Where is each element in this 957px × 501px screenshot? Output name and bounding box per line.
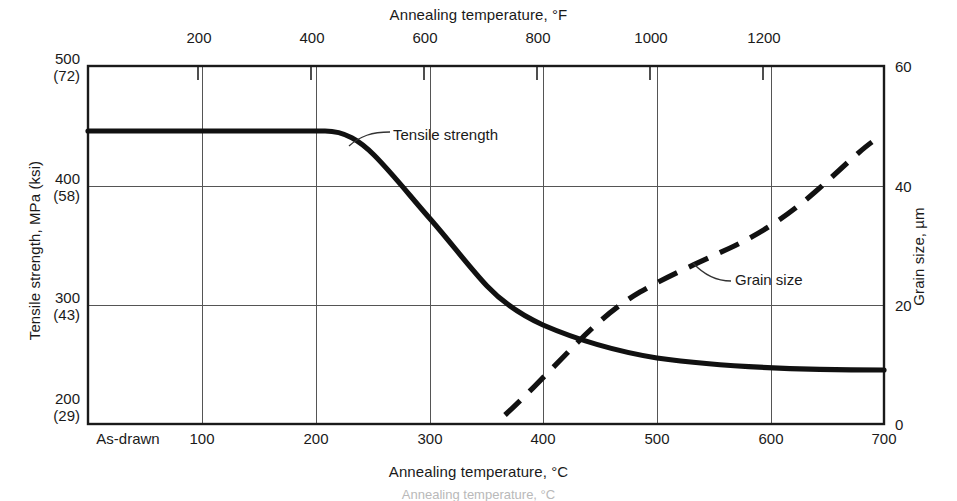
plot-frame: [88, 66, 884, 424]
figure-caption: Annealing temperature, °C: [0, 487, 957, 501]
plot-area: [0, 0, 957, 501]
chart-figure: Annealing temperature, °F Tensile streng…: [0, 0, 957, 501]
tensile-strength-curve: [88, 131, 884, 370]
grain-size-leader-line: [693, 263, 731, 281]
grain-size-curve: [505, 142, 872, 415]
vertical-gridlines: [203, 66, 772, 424]
top-axis-ticks: [198, 66, 763, 80]
